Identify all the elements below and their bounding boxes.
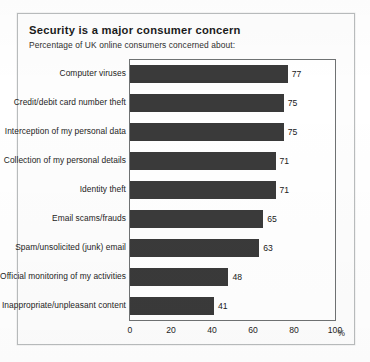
bar <box>130 152 276 170</box>
bar <box>130 297 214 315</box>
bar-value-label: 71 <box>276 156 290 166</box>
bar-value-label: 75 <box>284 98 298 108</box>
category-label: Official monitoring of my activities <box>0 272 126 282</box>
bar-value-label: 41 <box>214 301 228 311</box>
chart-title: Security is a major consumer concern <box>29 24 241 36</box>
bar-row: Inappropriate/unpleasant content41 <box>130 297 335 315</box>
chart-subtitle: Percentage of UK online consumers concer… <box>29 40 235 50</box>
category-label: Computer viruses <box>0 70 126 80</box>
category-label: Inappropriate/unpleasant content <box>0 301 126 311</box>
bar-row: Collection of my personal details71 <box>130 152 335 170</box>
category-label: Email scams/frauds <box>0 214 126 224</box>
bar-row: Email scams/frauds65 <box>130 210 335 228</box>
category-label: Spam/unsolicited (junk) email <box>0 243 126 253</box>
bar <box>130 268 228 286</box>
bar <box>130 65 288 83</box>
bar-row: Computer viruses77 <box>130 65 335 83</box>
bar <box>130 210 263 228</box>
x-axis-tick-label: 80 <box>274 325 314 335</box>
bar-value-label: 48 <box>228 272 242 282</box>
x-axis-tick-label: 100 <box>315 325 355 335</box>
x-axis-tick-label: 60 <box>233 325 273 335</box>
bar <box>130 239 259 257</box>
chart-card: Security is a major consumer concern Per… <box>17 13 355 345</box>
x-axis-tick-label: 0 <box>110 325 150 335</box>
plot-area: Computer viruses77Credit/debit card numb… <box>129 59 336 321</box>
category-label: Interception of my personal data <box>0 127 126 137</box>
bar-row: Identity theft71 <box>130 181 335 199</box>
bar <box>130 94 284 112</box>
category-label: Identity theft <box>0 185 126 195</box>
category-label: Collection of my personal details <box>0 156 126 166</box>
bar-row: Official monitoring of my activities48 <box>130 268 335 286</box>
bar <box>130 181 276 199</box>
bar-value-label: 63 <box>259 243 273 253</box>
bar-row: Spam/unsolicited (junk) email63 <box>130 239 335 257</box>
bar-value-label: 71 <box>276 185 290 195</box>
bar-value-label: 77 <box>288 69 302 79</box>
category-label: Credit/debit card number theft <box>0 99 126 109</box>
bar-row: Interception of my personal data75 <box>130 123 335 141</box>
bar <box>130 123 284 141</box>
x-axis-tick-label: 20 <box>151 325 191 335</box>
x-axis-unit-label: % <box>338 328 345 338</box>
x-axis-tick-label: 40 <box>192 325 232 335</box>
bar-row: Credit/debit card number theft75 <box>130 94 335 112</box>
bar-value-label: 75 <box>284 127 298 137</box>
bar-value-label: 65 <box>263 214 277 224</box>
